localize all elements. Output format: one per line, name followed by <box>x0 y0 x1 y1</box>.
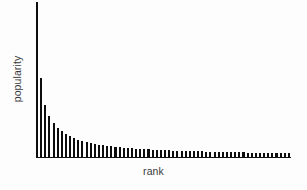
bar <box>94 144 96 158</box>
bar <box>77 140 79 158</box>
y-axis-label-container: popularity <box>0 0 34 158</box>
plot-area <box>36 2 292 158</box>
bar <box>69 136 71 158</box>
y-axis-label: popularity <box>11 56 23 103</box>
bar <box>90 143 92 158</box>
bar <box>53 123 55 158</box>
x-axis-label: rank <box>0 165 307 177</box>
x-axis-line <box>36 157 291 158</box>
bar <box>81 141 83 158</box>
bar <box>44 105 46 158</box>
bar <box>65 134 67 158</box>
bar <box>61 131 63 158</box>
bar <box>86 142 88 158</box>
bar <box>57 128 59 158</box>
bar <box>73 138 75 158</box>
bar <box>98 145 100 158</box>
bar-series <box>36 2 292 158</box>
bar <box>40 78 42 158</box>
bar <box>36 2 38 158</box>
bar <box>48 116 50 158</box>
long-tail-bar-chart: popularity rank <box>0 0 307 190</box>
